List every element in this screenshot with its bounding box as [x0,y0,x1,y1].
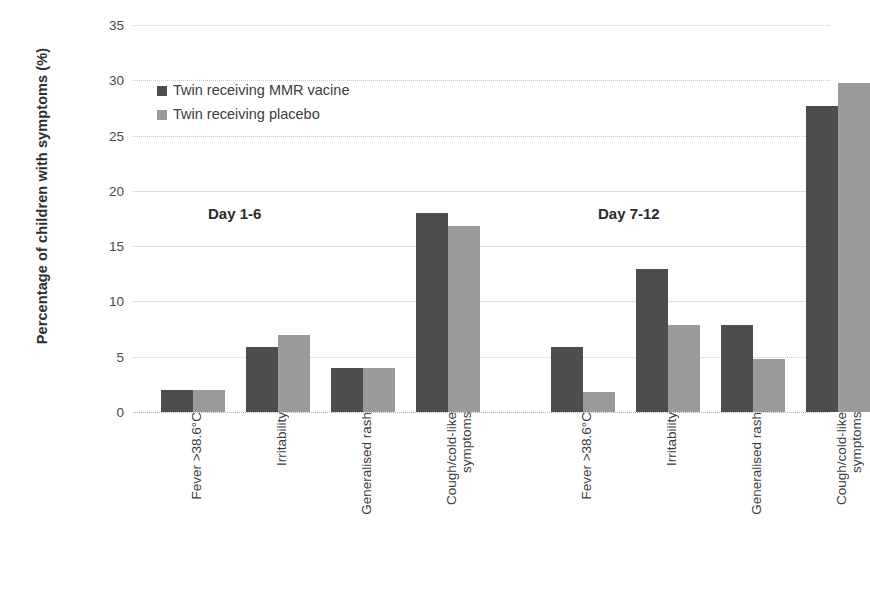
y-axis-title: Percentage of children with symptoms (%) [34,0,50,406]
bar [448,226,480,412]
bar [331,368,363,412]
x-axis-tick-label: Fever >38.6°C [579,412,594,500]
x-axis-tick-label: Generalised rash [749,412,764,515]
y-axis-tick-label: 25 [109,128,124,143]
x-axis-tick-label: Generalised rash [359,412,374,515]
legend-label: Twin receiving placebo [173,106,320,123]
legend-item: Twin receiving MMR vacine [157,82,349,99]
x-axis-tick-label: Irritability [664,412,679,466]
y-axis-tick-label: 5 [116,349,124,364]
legend-label: Twin receiving MMR vacine [173,82,349,99]
y-axis-tick-label: 10 [109,294,124,309]
group-annotation-2: Day 7-12 [598,205,660,222]
bar [246,347,278,412]
y-axis-tick-label: 20 [109,183,124,198]
x-axis-tick-labels: Fever >38.6°CIrritabilityGeneralised ras… [133,412,830,587]
y-axis-tick-label: 0 [116,405,124,420]
bar [806,106,838,412]
legend-item: Twin receiving placebo [157,106,349,123]
bar [838,83,870,413]
bar [161,390,193,412]
bar [583,392,615,412]
legend-swatch-icon [157,86,167,96]
x-axis-tick-label: Cough/cold-like symptoms [834,412,864,505]
x-axis-tick-label: Cough/cold-like symptoms [444,412,474,505]
chart-legend: Twin receiving MMR vacineTwin receiving … [157,82,349,130]
bar [721,325,753,412]
bar [636,269,668,412]
bar [193,390,225,412]
bar [278,335,310,412]
y-axis-tick-label: 30 [109,73,124,88]
chart-plot-area: 05101520253035 Day 1-6Day 7-12 Twin rece… [133,25,830,412]
bar [363,368,395,412]
y-axis-tick-label: 15 [109,239,124,254]
bar [668,325,700,412]
y-axis-tick-label: 35 [109,18,124,33]
legend-swatch-icon [157,110,167,120]
bar [551,347,583,412]
bar [416,213,448,412]
group-annotation-1: Day 1-6 [208,205,261,222]
bar [753,359,785,412]
x-axis-tick-label: Fever >38.6°C [189,412,204,500]
x-axis-tick-label: Irritability [274,412,289,466]
